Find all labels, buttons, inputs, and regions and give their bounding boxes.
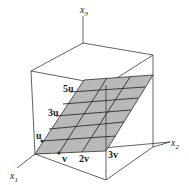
- span-diagram: x3 x2 x1 5u 3u u v 2v 3v: [0, 0, 189, 185]
- x3-label: x3: [79, 4, 88, 18]
- label-3v: 3v: [108, 149, 118, 160]
- label-v: v: [62, 153, 67, 164]
- label-5u: 5u: [63, 83, 74, 94]
- x1-axis: [17, 154, 35, 168]
- label-u: u: [36, 130, 42, 141]
- x2-label: x2: [170, 137, 179, 151]
- point-v: [57, 151, 60, 154]
- label-3u: 3u: [48, 107, 59, 118]
- label-2v: 2v: [79, 153, 89, 164]
- x1-label: x1: [9, 170, 18, 184]
